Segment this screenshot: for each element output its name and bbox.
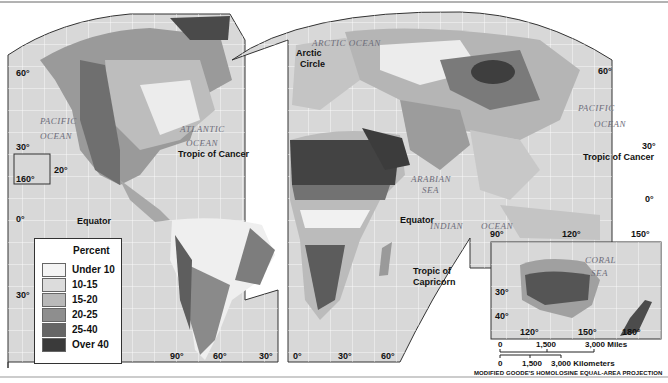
scale-km-mid: 1,500 xyxy=(522,359,542,368)
lat-30-east: 30° xyxy=(642,141,656,151)
scale-miles-end: 3,000 Miles xyxy=(585,340,627,349)
pacific-ocean-label-e2: OCEAN xyxy=(594,119,626,129)
lat-60-east: 60° xyxy=(598,66,612,76)
aus-lon-150: 150° xyxy=(578,327,597,337)
legend-swatch xyxy=(42,308,66,322)
scale-km-end: 3,000 Kilometers xyxy=(551,359,615,368)
lon-150e: 150° xyxy=(631,229,650,239)
legend-label: 20-25 xyxy=(72,309,98,320)
scale-km-zero: 0 xyxy=(498,359,502,368)
legend-swatch xyxy=(42,338,66,352)
tropic-of-capricorn-label-2: Capricorn xyxy=(413,277,456,287)
legend-item: 10-15 xyxy=(42,278,120,292)
aus-lon-120: 120° xyxy=(520,327,539,337)
scale-miles-zero: 0 xyxy=(498,340,502,349)
legend-item: 15-20 xyxy=(42,293,120,307)
lon-30e: 30° xyxy=(338,351,352,361)
legend-label: Over 40 xyxy=(72,339,109,350)
pacific-ocean-label-e1: PACIFIC xyxy=(578,103,615,113)
lon-120e: 120° xyxy=(562,229,581,239)
lat-60-west: 60° xyxy=(16,68,30,78)
aus-lat-40: 40° xyxy=(495,311,509,321)
legend-item: 25-40 xyxy=(42,323,120,337)
projection-label: MODIFIED GOODE'S HOMOLOSINE EQUAL-AREA P… xyxy=(474,370,662,376)
legend-label: Under 10 xyxy=(72,264,115,275)
legend: Percent Under 10 10-15 15-20 20-25 25-40… xyxy=(34,238,122,364)
aus-lon-180: 180° xyxy=(622,327,641,337)
legend-swatch xyxy=(42,293,66,307)
world-map: PACIFIC OCEAN ATLANTIC OCEAN ARCTIC OCEA… xyxy=(0,0,668,383)
arabian-sea-label-1: ARABIAN xyxy=(411,174,451,184)
lon-60e: 60° xyxy=(381,351,395,361)
tropic-of-cancer-label-east: Tropic of Cancer xyxy=(583,152,654,162)
legend-swatch xyxy=(42,263,66,277)
coral-sea-label-1: CORAL xyxy=(585,255,616,265)
coral-sea-label-2: SEA xyxy=(591,268,608,278)
lon-0: 0° xyxy=(293,351,302,361)
legend-swatch xyxy=(42,323,66,337)
indian-ocean-label-1: INDIAN xyxy=(430,221,463,231)
equator-label-east: Equator xyxy=(400,215,434,225)
lon-30w: 30° xyxy=(259,351,273,361)
lat-30s-west: 30° xyxy=(16,290,30,300)
lon-90e: 90° xyxy=(490,229,504,239)
legend-item: 20-25 xyxy=(42,308,120,322)
legend-title: Percent xyxy=(73,245,110,256)
equator-label-west: Equator xyxy=(77,216,111,226)
legend-item: Over 40 xyxy=(42,338,120,352)
pacific-ocean-label-w1: PACIFIC xyxy=(40,116,77,126)
arabian-sea-label-2: SEA xyxy=(422,185,439,195)
aus-lat-30: 30° xyxy=(495,287,509,297)
lat-0-east: 0° xyxy=(645,194,654,204)
lon-60w: 60° xyxy=(213,351,227,361)
tropic-of-capricorn-label-1: Tropic of xyxy=(413,266,451,276)
lat-30-west: 30° xyxy=(16,142,30,152)
arctic-ocean-label: ARCTIC OCEAN xyxy=(312,38,381,48)
scale-miles-mid: 1,500 xyxy=(536,340,556,349)
lon-90w: 90° xyxy=(170,351,184,361)
lat-0-west: 0° xyxy=(16,214,25,224)
pacific-ocean-label-w2: OCEAN xyxy=(40,131,72,141)
atlantic-ocean-label-1: ATLANTIC xyxy=(180,124,225,134)
legend-label: 10-15 xyxy=(72,279,98,290)
legend-label: 15-20 xyxy=(72,294,98,305)
arctic-circle-label-1: Arctic xyxy=(296,48,322,58)
tropic-of-cancer-label-west: Tropic of Cancer xyxy=(178,149,249,159)
atlantic-ocean-label-2: OCEAN xyxy=(186,138,218,148)
arctic-circle-label-2: Circle xyxy=(300,59,325,69)
hawaii-lon-160: 160° xyxy=(16,174,35,184)
legend-item: Under 10 xyxy=(42,263,120,277)
legend-swatch xyxy=(42,278,66,292)
hawaii-lat-20: 20° xyxy=(54,165,68,175)
legend-label: 25-40 xyxy=(72,324,98,335)
